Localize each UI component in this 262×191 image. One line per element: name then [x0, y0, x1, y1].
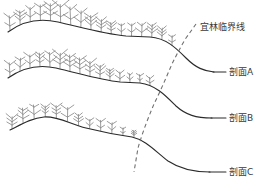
shrub-icon	[74, 113, 84, 125]
shrub-icon	[120, 127, 126, 135]
timberline-label: 宜林临界线	[200, 21, 245, 32]
shrub-icon	[115, 70, 124, 81]
shrub-icon	[118, 24, 126, 35]
shrub-icon	[41, 104, 50, 116]
shrub-icon	[106, 68, 114, 80]
vegetation-cluster-a	[4, 0, 176, 45]
timberline-group: 宜林临界线	[134, 21, 245, 173]
shrub-icon	[24, 52, 37, 67]
vegetation-cluster-b	[4, 49, 154, 85]
diagram-canvas: 剖面A 剖面B 剖面C 宜林临界线	[0, 0, 262, 191]
terrain-line-c	[10, 117, 210, 172]
profile-label-b: 剖面B	[229, 112, 253, 123]
shrub-icon	[14, 10, 27, 24]
shrub-icon	[127, 73, 133, 82]
shrub-icon	[51, 103, 63, 118]
terrain-profile-diagram: 剖面A 剖面B 剖面C 宜林临界线	[0, 0, 262, 191]
shrub-icon	[61, 105, 74, 121]
shrub-icon	[106, 21, 117, 34]
shrub-icon	[128, 23, 136, 36]
profile-label-a: 剖面A	[229, 66, 254, 77]
shrub-icon	[94, 64, 106, 78]
shrub-icon	[35, 52, 44, 66]
shrub-icon	[63, 5, 78, 25]
profile-group-c: 剖面C	[6, 103, 253, 176]
shrub-icon	[96, 17, 107, 32]
shrub-icon	[146, 75, 154, 85]
shrub-icon	[28, 104, 41, 118]
vegetation-cluster-c	[6, 103, 137, 137]
shrub-icon	[25, 6, 36, 21]
profile-group-a: 剖面A	[4, 0, 254, 76]
shrub-icon	[135, 22, 147, 36]
shrub-icon	[157, 26, 166, 39]
shrub-icon	[107, 121, 116, 133]
shrub-icon	[85, 118, 93, 128]
profile-label-c: 剖面C	[229, 166, 253, 177]
shrub-icon	[96, 119, 105, 131]
shrub-icon	[43, 51, 57, 67]
profile-group-b: 剖面B	[4, 49, 253, 122]
timberline-dashed-line	[134, 24, 196, 172]
shrub-icon	[17, 108, 29, 123]
shrub-icon	[146, 23, 157, 37]
shrub-icon	[136, 74, 143, 83]
shrub-icon	[15, 57, 26, 71]
shrub-icon	[131, 130, 136, 137]
